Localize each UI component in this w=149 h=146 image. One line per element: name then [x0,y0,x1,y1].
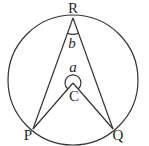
point-label-q: Q [113,127,124,143]
angle-label-a: a [69,59,77,75]
segment-cp [33,83,73,129]
angle-label-b: b [68,35,76,51]
point-label-p: P [24,127,32,143]
angle-a-arc [65,75,81,89]
circle-theorem-diagram: R b a C P Q [0,0,149,146]
segment-rq [73,18,113,129]
point-label-c: C [69,88,79,104]
point-label-r: R [68,0,78,16]
segment-rp [33,18,73,129]
